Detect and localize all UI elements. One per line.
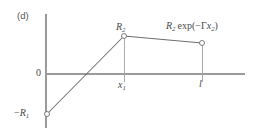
- label-r2-peak-sub: 2: [122, 26, 125, 33]
- panel-label: (d): [17, 11, 29, 21]
- marker-r2: [122, 34, 127, 39]
- label-x1: x1: [118, 80, 126, 92]
- figure-panel-d: (d) R2 R2exp(−Γx2) 0 x1 l −R1: [0, 0, 255, 139]
- label-neg-r1-sub: 1: [26, 112, 29, 119]
- label-origin: 0: [36, 68, 41, 78]
- label-decay-base-sub: 2: [172, 25, 175, 32]
- label-decay-expression: R2exp(−Γx2): [166, 21, 218, 33]
- curve-segment-decay: [124, 36, 202, 43]
- label-decay-fn: exp(−: [178, 20, 201, 31]
- curve-segment-rising: [47, 36, 124, 114]
- marker-neg-r1: [45, 112, 50, 117]
- marker-decay: [200, 41, 205, 46]
- label-decay-close: ): [215, 20, 218, 31]
- label-x1-sub: 1: [122, 84, 125, 91]
- label-r2-peak: R2: [116, 22, 126, 34]
- label-neg-r1: −R1: [14, 108, 29, 120]
- label-length: l: [199, 79, 202, 89]
